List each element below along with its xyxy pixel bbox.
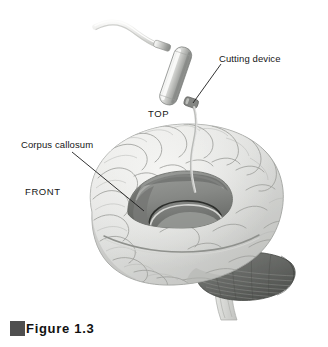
label-corpus-callosum: Corpus callosum [21,139,93,150]
label-cutting-device: Cutting device [219,53,281,64]
caption-label: Figure 1.3 [26,321,94,336]
label-top: TOP [148,108,169,119]
leader-line-cutting-device [193,64,221,103]
figure-caption: Figure 1.3 [10,321,94,336]
probe-cable-icon [95,21,158,48]
caption-swatch-icon [10,321,25,336]
label-front: FRONT [25,186,61,197]
figure-container: Cutting device Corpus callosum TOP FRONT… [0,0,328,347]
